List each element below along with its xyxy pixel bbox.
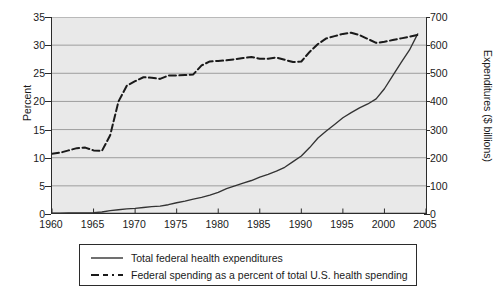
x-tick-label: 2005 [405,218,445,230]
x-tick-label: 1965 [73,218,113,230]
y-axis-left-ticks: 05101520253035 [14,17,45,214]
y-tick-mark-left [45,214,51,215]
y-tick-label-right: 700 [430,12,460,22]
legend-item-dashed: Federal spending as a percent of total U… [80,266,416,283]
dashed-line-swatch [90,270,124,280]
y-axis-right-title: Expenditures ($ billions) [482,16,494,196]
x-tick-label: 1990 [280,218,320,230]
x-axis-ticks: 1960196519701975198019851990199520002005 [51,218,425,234]
solid-line-swatch [90,253,124,263]
legend-item-solid: Total federal health expenditures [80,249,416,266]
legend-label-solid: Total federal health expenditures [131,252,283,264]
legend-label-dashed: Federal spending as a percent of total U… [131,269,408,281]
x-tick-label: 1975 [156,218,196,230]
y-tick-label-right: 500 [430,68,460,78]
x-tick-label: 1985 [239,218,279,230]
series-line-1 [52,34,418,213]
x-tick-label: 1995 [322,218,362,230]
plot-area [51,17,427,214]
chart-figure: Percent Expenditures ($ billions) 051015… [0,0,494,294]
series-line-2 [52,33,418,154]
y-tick-label-left: 35 [19,12,45,22]
y-tick-label-left: 5 [19,181,45,191]
y-tick-label-left: 30 [19,40,45,50]
x-tick-label: 1980 [197,218,237,230]
y-tick-label-right: 100 [430,181,460,191]
y-tick-label-left: 25 [19,68,45,78]
y-tick-label-right: 400 [430,96,460,106]
x-tick-label: 2000 [363,218,403,230]
y-axis-right-ticks: 0100200300400500600700 [430,17,464,214]
plot-canvas [52,17,426,214]
y-tick-label-left: 15 [19,125,45,135]
y-tick-label-left: 10 [19,153,45,163]
y-tick-mark-right [424,214,430,215]
y-tick-label-left: 20 [19,96,45,106]
y-tick-label-right: 200 [430,153,460,163]
x-tick-label: 1960 [31,218,71,230]
chart-legend: Total federal health expenditures Federa… [79,244,417,286]
y-tick-label-right: 600 [430,40,460,50]
y-tick-label-right: 300 [430,125,460,135]
x-tick-label: 1970 [114,218,154,230]
